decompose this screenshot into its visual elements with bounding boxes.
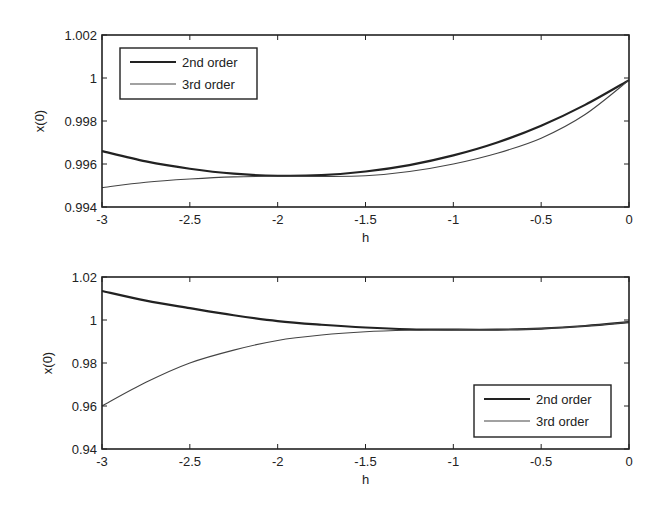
x-tick-label: -2.5 [179,212,201,227]
x-tick-label: -1.5 [354,212,376,227]
y-tick-label: 0.998 [64,114,97,129]
y-tick-label: 0.98 [72,356,97,371]
x-tick-label: -3 [96,454,108,469]
y-tick-label: 1 [90,313,97,328]
y-tick-label: 1.02 [72,270,97,285]
y-tick-label: 1.002 [64,28,97,43]
x-tick-label: -2 [272,212,284,227]
figure: -3-2.5-2-1.5-1-0.500.9940.9960.99811.002… [0,0,665,519]
x-axis-label: h [362,230,369,245]
legend: 2nd order3rd order [474,385,611,437]
y-axis-label: x(0) [32,110,47,132]
y-tick-label: 1 [90,71,97,86]
legend-label: 3rd order [536,414,589,429]
x-tick-label: -2.5 [179,454,201,469]
y-axis-label: x(0) [40,352,55,374]
y-tick-label: 0.96 [72,399,97,414]
legend-label: 3rd order [182,77,235,92]
legend-label: 2nd order [536,392,592,407]
series-line-2nd-order [102,291,629,330]
x-tick-label: -1.5 [354,454,376,469]
y-tick-label: 0.994 [64,200,97,215]
x-tick-label: -0.5 [530,212,552,227]
top-subplot: -3-2.5-2-1.5-1-0.500.9940.9960.99811.002… [32,28,633,245]
x-axis-label: h [362,472,369,487]
y-tick-label: 0.996 [64,157,97,172]
x-tick-label: -0.5 [530,454,552,469]
legend: 2nd order3rd order [120,48,257,99]
x-tick-label: -1 [448,212,460,227]
x-tick-label: 0 [625,212,632,227]
legend-label: 2nd order [182,55,238,70]
bottom-subplot: -3-2.5-2-1.5-1-0.500.940.960.9811.02hx(0… [40,270,633,487]
y-tick-label: 0.94 [72,442,97,457]
x-tick-label: -3 [96,212,108,227]
x-tick-label: -2 [272,454,284,469]
x-tick-label: 0 [625,454,632,469]
x-tick-label: -1 [448,454,460,469]
